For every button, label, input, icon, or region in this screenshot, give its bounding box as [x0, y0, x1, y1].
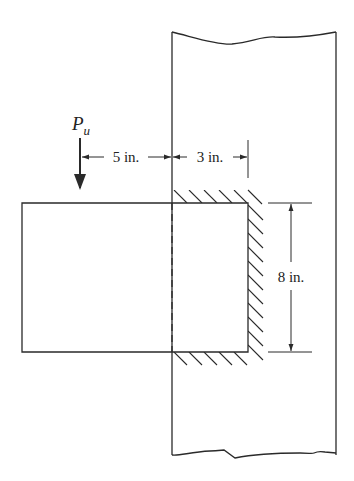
- weld-horizontal-label: 3 in.: [197, 149, 224, 165]
- eccentricity-label: 5 in.: [113, 149, 140, 165]
- bracket-plate: [22, 203, 248, 352]
- dimension-eccentricity: 5 in.: [82, 149, 171, 165]
- weld-connection-diagram: Pu 5 in. 3 in. 8 in.: [0, 0, 354, 481]
- dimension-weld-horizontal: 3 in.: [173, 140, 248, 178]
- load-label: Pu: [71, 113, 91, 138]
- load-pu: Pu: [71, 113, 91, 190]
- fillet-weld-hatching: [174, 190, 263, 365]
- column-member: [172, 32, 336, 458]
- weld-vertical-label: 8 in.: [278, 269, 305, 285]
- dimension-weld-vertical: 8 in.: [268, 203, 312, 352]
